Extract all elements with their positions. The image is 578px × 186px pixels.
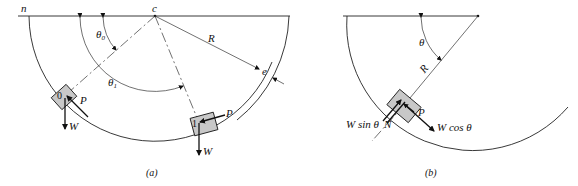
radius-label-b: R — [416, 62, 430, 76]
diagram-canvas: c n R e θ0 θ1 0 P W 1 P — [0, 0, 578, 186]
weight0-label: W — [69, 120, 79, 132]
left-end-label: n — [21, 2, 27, 14]
radius-arrow — [155, 16, 259, 69]
caption-a: (a) — [146, 167, 158, 179]
block1-label: 1 — [192, 118, 197, 129]
w-cos-label: W cos θ — [437, 121, 472, 133]
weight1-label: W — [203, 145, 213, 157]
block-1: 1 P W — [190, 107, 233, 157]
center-label: c — [152, 2, 157, 14]
theta1-label: θ1 — [108, 76, 117, 90]
thickness-label: e — [262, 65, 267, 77]
figure-b: R θ N W sin θ W cos θ P (b) — [343, 15, 568, 179]
radius-line-b — [405, 16, 478, 104]
force-p0-label: P — [79, 94, 87, 106]
force-p-label-b: P — [417, 106, 425, 118]
theta0-arc — [103, 17, 116, 50]
theta0-label: θ0 — [96, 28, 105, 42]
normal-label: N — [383, 118, 392, 130]
theta-label-b: θ — [419, 36, 425, 48]
thickness-arrow — [273, 78, 284, 84]
w-sin-label: W sin θ — [346, 118, 380, 130]
block0-label: 0 — [57, 90, 62, 101]
force-p1-label: P — [225, 107, 233, 119]
caption-b: (b) — [425, 167, 437, 179]
radius-to-block1 — [155, 16, 200, 125]
figure-a: c n R e θ0 θ1 0 P W 1 P — [18, 2, 290, 179]
radius-label: R — [207, 32, 215, 44]
